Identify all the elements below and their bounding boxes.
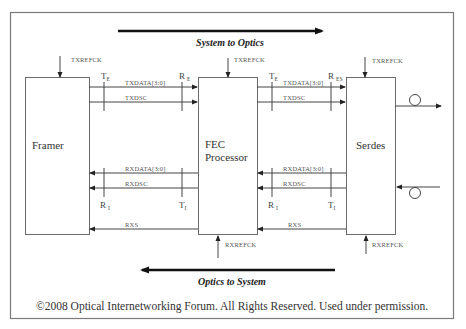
- serdes-txrefck-label: TXREFCK: [372, 57, 403, 64]
- left-rxdsc-label: RXDSC: [125, 180, 148, 187]
- optical-tx-fiber-icon: [410, 95, 421, 106]
- serdes-label: Serdes: [356, 139, 385, 151]
- fec-rxrefck-label: RXREFCK: [225, 241, 256, 248]
- direction-label-bottom: Optics to System: [198, 276, 266, 287]
- left-rxs-label: RXS: [125, 221, 138, 228]
- fec-label-line2: Processor: [205, 151, 248, 163]
- framer-txrefck-label: TXREFCK: [71, 56, 102, 63]
- interface-diagram: System to Optics Optics to System Framer…: [0, 0, 466, 329]
- left-rxdata-label: RXDATA[3:0]: [125, 165, 166, 173]
- serdes-block: [347, 78, 396, 235]
- fec-txrefck-label: TXREFCK: [234, 56, 265, 63]
- direction-label-top: System to Optics: [196, 37, 264, 48]
- serdes-rxrefck-label: RXREFCK: [372, 241, 403, 248]
- right-rxs-label: RXS: [288, 221, 301, 228]
- left-txdsc-label: TXDSC: [125, 94, 147, 101]
- right-txdata-label: TXDATA[3:0]: [283, 79, 323, 87]
- right-txdsc-label: TXDSC: [283, 94, 305, 101]
- framer-block: [26, 78, 90, 235]
- fec-label-line1: FEC: [205, 138, 225, 150]
- right-rxdata-label: RXDATA[3:0]: [283, 165, 324, 173]
- copyright-notice: ©2008 Optical Internetworking Forum. All…: [36, 300, 428, 313]
- optical-rx-fiber-icon: [410, 188, 421, 199]
- left-txdata-label: TXDATA[3:0]: [125, 79, 165, 87]
- right-rxdsc-label: RXDSC: [283, 180, 306, 187]
- framer-label: Framer: [32, 139, 64, 151]
